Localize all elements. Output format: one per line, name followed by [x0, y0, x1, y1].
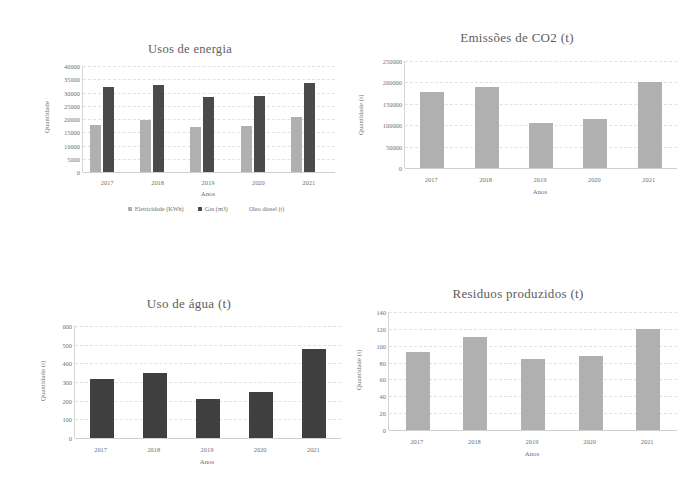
chart-usos-de-energia: Usos de energia Quantidade 4000035000300…: [40, 42, 340, 227]
x-axis-ticks: 20172018201920202021: [388, 438, 676, 445]
legend-item[interactable]: Eletricidade (KWh): [128, 205, 184, 212]
bar-series-container: [389, 312, 677, 430]
bar: [638, 82, 662, 168]
y-tick-label: 40: [380, 393, 386, 400]
plot-wrap: Quantidade (t) 140120100806040200: [352, 306, 684, 434]
y-tick-label: 50000: [386, 143, 402, 150]
chart-title: Uso de água (t): [34, 296, 344, 312]
bar-series-container: [405, 61, 677, 168]
legend-label: Oleo diesel (t): [249, 205, 284, 212]
x-tick-label: 2020: [561, 438, 619, 445]
bar: [153, 85, 164, 172]
legend-item[interactable]: Gas (m3): [198, 205, 228, 212]
y-axis-ticks: 140120100806040200: [360, 306, 386, 430]
x-axis-label: Anos: [404, 188, 676, 195]
plot-wrap: Quantidade 40000350003000025000200001500…: [40, 62, 340, 177]
bar-group: [140, 66, 177, 172]
bar-group: [579, 312, 603, 430]
x-tick-label: 2019: [503, 438, 561, 445]
legend-item[interactable]: Oleo diesel (t): [242, 205, 284, 212]
bar: [302, 349, 326, 438]
x-tick-label: 2021: [287, 446, 340, 453]
legend-swatch-icon: [198, 207, 202, 211]
x-tick-label: 2018: [446, 438, 504, 445]
y-tick-label: 5000: [67, 155, 80, 162]
bar: [196, 399, 220, 438]
bar: [140, 120, 151, 172]
bar: [529, 123, 553, 168]
axis-baseline: [405, 168, 677, 169]
bar: [190, 127, 201, 172]
y-tick-label: 500: [62, 341, 72, 348]
bar: [475, 87, 499, 168]
y-axis-ticks: 6005004003002001000: [46, 320, 72, 438]
bar-series-container: [75, 326, 341, 438]
y-tick-label: 0: [77, 169, 80, 176]
chart-emissoes-de-co2: Emissões de CO2 (t) Quantidade (t) 25000…: [352, 30, 682, 210]
y-tick-label: 100000: [383, 122, 402, 129]
x-tick-label: 2019: [183, 179, 233, 186]
y-tick-label: 300: [62, 379, 72, 386]
bar: [90, 379, 114, 438]
y-axis-ticks: 250000200000150000100000500000: [364, 56, 402, 168]
bar-group: [475, 61, 499, 168]
bar: [583, 119, 607, 168]
y-tick-label: 120: [376, 325, 386, 332]
y-tick-label: 15000: [64, 129, 80, 136]
bar-group: [302, 326, 326, 438]
bar: [304, 83, 315, 172]
bar: [254, 96, 265, 172]
legend-label: Gas (m3): [205, 205, 228, 212]
axis-baseline: [75, 438, 341, 439]
x-axis-ticks: 20172018201920202021: [74, 446, 340, 453]
x-tick-label: 2019: [180, 446, 233, 453]
y-tick-label: 25000: [64, 102, 80, 109]
bar: [90, 125, 101, 172]
bar: [636, 329, 660, 430]
x-tick-label: 2017: [74, 446, 127, 453]
y-tick-label: 200000: [383, 79, 402, 86]
plot-area: [404, 61, 677, 168]
bar-group: [196, 326, 220, 438]
plot-wrap: Quantidade (t) 6005004003002001000: [34, 320, 344, 442]
y-tick-label: 10000: [64, 142, 80, 149]
bar-group: [521, 312, 545, 430]
legend-swatch-icon: [242, 207, 246, 211]
bar-group: [143, 326, 167, 438]
bar-group: [190, 66, 227, 172]
bar-group: [291, 66, 328, 172]
bar: [291, 117, 302, 172]
bar-group: [636, 312, 660, 430]
x-axis-label: Anos: [74, 458, 340, 465]
y-axis-ticks: 4000035000300002500020000150001000050000: [50, 62, 80, 172]
y-tick-label: 140: [376, 309, 386, 316]
plot-area: [388, 312, 677, 430]
y-tick-label: 80: [380, 359, 386, 366]
bar: [579, 356, 603, 430]
bar-group: [463, 312, 487, 430]
x-axis-label: Anos: [82, 190, 334, 197]
plot-wrap: Quantidade (t) 2500002000001500001000005…: [352, 56, 682, 174]
y-tick-label: 150000: [383, 100, 402, 107]
y-tick-label: 200: [62, 397, 72, 404]
y-tick-label: 40000: [64, 63, 80, 70]
bar-group: [90, 66, 127, 172]
y-tick-label: 600: [62, 323, 72, 330]
bar: [241, 126, 252, 172]
y-tick-label: 60: [380, 376, 386, 383]
x-tick-label: 2021: [618, 438, 676, 445]
chart-title: Residuos produzidos (t): [352, 286, 684, 302]
plot-area: [82, 66, 335, 172]
bar: [103, 87, 114, 172]
y-tick-label: 0: [399, 165, 402, 172]
chart-title: Emissões de CO2 (t): [352, 30, 682, 46]
bar: [406, 352, 430, 430]
x-tick-label: 2021: [622, 176, 676, 183]
bar: [143, 373, 167, 438]
x-tick-label: 2019: [513, 176, 567, 183]
x-tick-label: 2018: [127, 446, 180, 453]
chart-residuos-produzidos: Residuos produzidos (t) Quantidade (t) 1…: [352, 286, 684, 472]
y-tick-label: 100: [62, 416, 72, 423]
bar-group: [406, 312, 430, 430]
y-tick-label: 20000: [64, 116, 80, 123]
